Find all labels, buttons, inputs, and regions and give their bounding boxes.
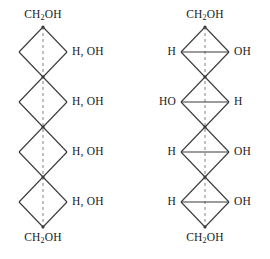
substituent-label-right-left-4: H, OH <box>72 196 104 208</box>
substituent-label-right-right-2: H <box>234 96 243 108</box>
terminal-label-bottom-right: CH2OH <box>186 232 224 245</box>
structure-right: CH2OH CH2OH OHHHHOOHHOHH <box>135 0 270 259</box>
structure-right-skeleton <box>135 0 270 259</box>
terminal-label-top-right: CH2OH <box>186 9 224 22</box>
substituent-label-right-left-3: H, OH <box>72 146 104 158</box>
substituent-label-left-right-2: HO <box>159 96 176 108</box>
structure-left-skeleton <box>0 0 135 259</box>
substituent-label-right-right-1: OH <box>234 46 251 58</box>
terminal-label-top-left: CH2OH <box>24 9 62 22</box>
structure-left: CH2OH CH2OH H, OHH, OHH, OHH, OH <box>0 0 135 259</box>
terminal-label-bottom-left: CH2OH <box>24 232 62 245</box>
substituent-label-right-left-1: H, OH <box>72 46 104 58</box>
substituent-label-right-right-4: OH <box>234 196 251 208</box>
substituent-label-right-right-3: OH <box>234 146 251 158</box>
chemical-structure-diagram: CH2OH CH2OH H, OHH, OHH, OHH, OH CH2OH C… <box>0 0 270 259</box>
substituent-label-left-right-1: H <box>167 46 176 58</box>
substituent-label-left-right-3: H <box>167 146 176 158</box>
substituent-label-right-left-2: H, OH <box>72 96 104 108</box>
substituent-label-left-right-4: H <box>167 196 176 208</box>
